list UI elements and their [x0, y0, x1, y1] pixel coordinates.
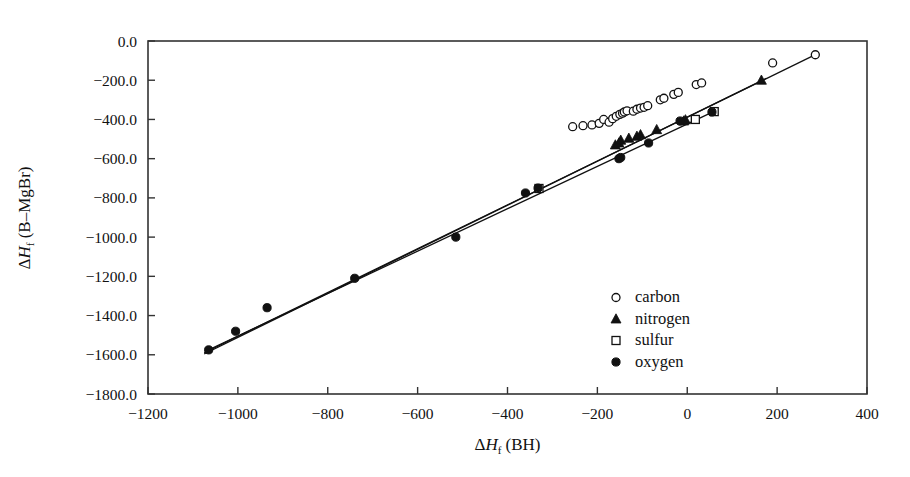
legend-label: sulfur — [635, 330, 674, 349]
x-tick-label: −1000 — [218, 405, 258, 422]
chart-figure: 0.0−200.0−400.0−600.0−800.0−1000.0−1200.… — [0, 0, 910, 477]
svg-text:ΔHf (BH): ΔHf (BH) — [474, 435, 540, 456]
data-point — [676, 117, 684, 125]
data-point — [691, 115, 699, 123]
data-point — [205, 346, 213, 354]
data-point — [674, 88, 682, 96]
y-tick-label: −1400.0 — [86, 307, 138, 324]
data-point — [534, 184, 542, 192]
x-tick-label: −400 — [492, 405, 524, 422]
data-point — [644, 102, 652, 110]
plot-frame — [148, 41, 867, 394]
legend-marker-filled-triangle — [611, 314, 621, 323]
data-point — [617, 153, 625, 161]
y-tick-label: −1200.0 — [86, 268, 138, 285]
legend-label: nitrogen — [635, 309, 690, 328]
data-point — [232, 327, 240, 335]
legend-item-sulfur: sulfur — [612, 330, 674, 349]
x-tick-label: 200 — [766, 405, 790, 422]
chart-legend: carbonnitrogensulfuroxygen — [611, 287, 690, 371]
data-point — [811, 51, 819, 59]
legend-item-oxygen: oxygen — [612, 352, 684, 371]
legend-label: oxygen — [635, 352, 684, 371]
data-point — [698, 79, 706, 87]
x-tick-label: −800 — [312, 405, 344, 422]
data-point — [351, 274, 359, 282]
data-point — [652, 124, 662, 133]
x-tick-label: 0 — [683, 405, 691, 422]
legend-marker-open-circle — [612, 294, 620, 302]
data-point — [521, 189, 529, 197]
data-point — [616, 135, 626, 144]
scatter-plot: 0.0−200.0−400.0−600.0−800.0−1000.0−1200.… — [0, 0, 910, 477]
x-tick-label: −1200 — [128, 405, 168, 422]
data-point — [660, 94, 668, 102]
y-axis-title: ΔHf (B–MgBr) — [15, 167, 36, 270]
data-point — [579, 122, 587, 130]
data-point — [708, 108, 716, 116]
y-tick-label: −1000.0 — [86, 229, 138, 246]
data-point — [263, 304, 271, 312]
x-tick-label: −200 — [581, 405, 613, 422]
x-axis-title: ΔHf (BH) — [474, 435, 540, 456]
data-point — [645, 139, 653, 147]
y-tick-label: −600.0 — [93, 150, 137, 167]
legend-item-carbon: carbon — [612, 287, 680, 306]
y-tick-label: 0.0 — [118, 33, 138, 50]
legend-marker-open-square — [612, 337, 620, 345]
y-tick-label: −800.0 — [93, 189, 137, 206]
x-tick-label: 400 — [855, 405, 879, 422]
series-sulfur — [535, 108, 718, 193]
y-tick-label: −1600.0 — [86, 346, 138, 363]
svg-text:ΔHf (B–MgBr): ΔHf (B–MgBr) — [15, 167, 36, 270]
legend-label: carbon — [635, 287, 680, 306]
data-point — [769, 59, 777, 67]
data-point — [452, 233, 460, 241]
y-tick-label: −1800.0 — [86, 386, 138, 403]
data-point — [624, 133, 634, 142]
x-tick-label: −600 — [402, 405, 434, 422]
legend-marker-filled-circle — [612, 358, 620, 366]
y-tick-label: −400.0 — [93, 111, 137, 128]
data-point — [569, 123, 577, 131]
legend-item-nitrogen: nitrogen — [611, 309, 690, 328]
y-tick-label: −200.0 — [93, 72, 137, 89]
